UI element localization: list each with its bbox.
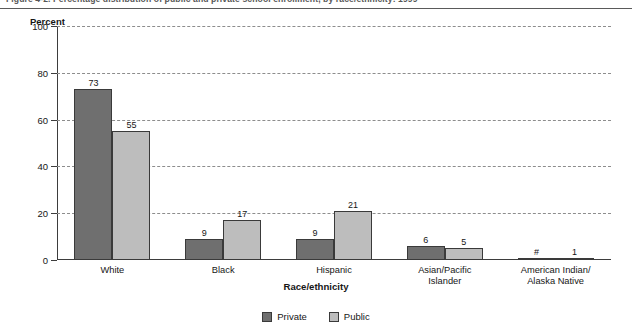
bar-public[interactable]: 17: [223, 220, 261, 260]
y-tick-label-0: 0: [43, 255, 48, 266]
legend-swatch-icon: [329, 312, 339, 322]
x-axis-title: Race/ethnicity: [0, 281, 632, 292]
bar-value-label: 9: [202, 228, 207, 238]
bar-private[interactable]: 9: [296, 239, 334, 260]
legend-swatch-icon: [262, 312, 272, 322]
y-tick-label-20: 20: [37, 208, 48, 219]
bar-private[interactable]: 6: [407, 246, 445, 260]
bar-value-label: 73: [88, 78, 98, 88]
bar-private[interactable]: 9: [185, 239, 223, 260]
bar-value-label: 17: [237, 209, 247, 219]
legend-label: Private: [277, 311, 307, 322]
x-category-label: Black: [212, 265, 235, 276]
legend-item-public[interactable]: Public: [329, 311, 370, 322]
bar-value-label: 21: [348, 200, 358, 210]
bar-value-label: 5: [461, 237, 466, 247]
bar-private[interactable]: #: [518, 258, 556, 260]
legend-item-private[interactable]: Private: [262, 311, 307, 322]
figure-title: Figure 4-2. Percentage distribution of p…: [6, 0, 626, 4]
bar-value-label: 9: [312, 228, 317, 238]
bar-value-label: #: [534, 247, 539, 257]
bar-public[interactable]: 1: [556, 258, 594, 260]
bar-group: 921Hispanic: [279, 26, 390, 260]
bar-value-label: 1: [572, 247, 577, 257]
legend-label: Public: [344, 311, 370, 322]
bar-public[interactable]: 55: [112, 131, 150, 260]
x-category-label: White: [101, 265, 125, 276]
plot-area: 0204060801007355White917Black921Hispanic…: [57, 26, 611, 260]
bar-private[interactable]: 73: [74, 89, 112, 260]
bar-public[interactable]: 5: [445, 248, 483, 260]
bar-group: #1American Indian/Alaska Native: [500, 26, 611, 260]
bar-group: 7355White: [57, 26, 168, 260]
y-tick-label-80: 80: [37, 67, 48, 78]
bar-public[interactable]: 21: [334, 211, 372, 260]
bar-group: 65Asian/PacificIslander: [389, 26, 500, 260]
bar-chart: Percent 0204060801007355White917Black921…: [0, 10, 632, 304]
x-category-label: Hispanic: [316, 265, 352, 276]
y-tick-0: [51, 260, 57, 261]
chart-legend: PrivatePublic: [0, 311, 632, 322]
y-tick-label-40: 40: [37, 161, 48, 172]
title-divider: [0, 8, 632, 9]
y-tick-label-60: 60: [37, 114, 48, 125]
bar-group: 917Black: [168, 26, 279, 260]
bar-value-label: 6: [423, 235, 428, 245]
bar-value-label: 55: [126, 120, 136, 130]
y-tick-label-100: 100: [32, 21, 48, 32]
